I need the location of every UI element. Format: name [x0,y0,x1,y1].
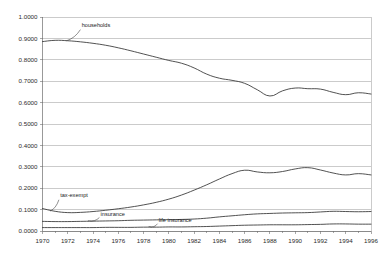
x-axis-tick-label: 1984 [213,237,227,244]
leader-line-insurance [88,218,99,222]
x-axis-tick-label: 1974 [86,237,100,244]
x-axis-tick-label: 1972 [61,237,75,244]
x-tickmarks-group [43,231,372,234]
series-label-tax-exempt: tax-exempt [60,192,88,198]
series-line-tax-exempt [43,168,372,213]
series-line-insurance [43,211,372,221]
data-series-group [43,40,372,227]
x-axis-tick-label: 1982 [187,237,201,244]
x-axis-tick-label: 1992 [314,237,328,244]
leader-line-life-insurance [149,224,158,227]
y-axis-tick-label: 0.9000 [19,35,38,42]
y-axis-tick-label: 0.4000 [19,142,38,149]
y-axis-tick-label: 0.0000 [19,227,38,234]
x-axis-tick-label: 1980 [162,237,176,244]
y-axis-tick-label: 0.8000 [19,56,38,63]
y-axis-tick-label: 1.0000 [19,13,38,20]
y-axis-tick-label: 0.2000 [19,184,38,191]
x-axis-tick-label: 1996 [364,237,378,244]
x-axis-tick-label: 1994 [339,237,353,244]
y-tickmarks-group [40,17,43,231]
line-chart: 0.00000.10000.20000.30000.40000.50000.60… [0,0,385,254]
gridlines-group [43,17,372,231]
x-axis-tick-label: 1970 [36,237,50,244]
y-axis-labels-group: 0.00000.10000.20000.30000.40000.50000.60… [19,13,38,234]
chart-container: 0.00000.10000.20000.30000.40000.50000.60… [0,0,385,254]
series-line-households [43,40,372,96]
y-axis-tick-label: 0.7000 [19,77,38,84]
x-axis-tick-label: 1978 [137,237,151,244]
series-annotations-group: householdstax-exemptinsurancelife insura… [50,22,192,227]
y-axis-tick-label: 0.1000 [19,206,38,213]
series-label-life-insurance: life insurance [159,217,192,223]
series-line-life-insurance [43,224,372,228]
x-axis-tick-label: 1986 [238,237,252,244]
x-axis-labels-group: 1970197219741976197819801982198419861988… [36,237,379,244]
x-axis-tick-label: 1988 [263,237,277,244]
y-axis-tick-label: 0.3000 [19,163,38,170]
y-axis-tick-label: 0.5000 [19,120,38,127]
series-label-households: households [82,22,111,28]
leader-line-households [67,30,81,41]
series-label-insurance: insurance [101,211,125,217]
y-axis-tick-label: 0.6000 [19,99,38,106]
x-axis-tick-label: 1990 [288,237,302,244]
x-axis-tick-label: 1976 [111,237,125,244]
